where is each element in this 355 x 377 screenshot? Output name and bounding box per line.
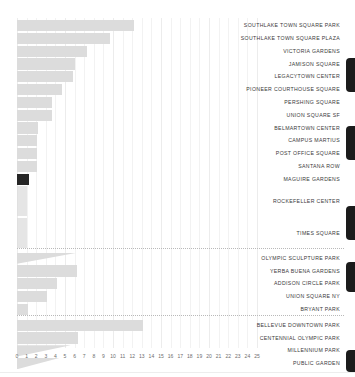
x-axis: 0123456789101112131415161718192021222324… (17, 352, 257, 364)
bar (17, 46, 87, 57)
x-tick-4: 4 (54, 352, 57, 360)
x-tick-23: 23 (235, 352, 241, 360)
x-tick-13: 13 (139, 352, 145, 360)
x-tick-15: 15 (158, 352, 164, 360)
category-labels: SOUTHLAKE TOWN SQUARE PARKSOUTHLAKE TOWN… (150, 18, 340, 348)
category-label[interactable]: SANTANA ROW (298, 163, 340, 170)
category-label[interactable]: BELMARTOWN CENTER (274, 125, 340, 132)
category-label[interactable]: TIMES SQUARE (297, 230, 340, 237)
edge-marker-4 (346, 262, 355, 292)
category-label[interactable]: ROCKEFELLER CENTER (273, 198, 340, 205)
category-label[interactable]: BELLEVUE DOWNTOWN PARK (257, 322, 340, 329)
bar (17, 122, 38, 133)
x-tick-20: 20 (206, 352, 212, 360)
bottom-divider (0, 372, 355, 373)
x-tick-24: 24 (245, 352, 251, 360)
x-tick-14: 14 (149, 352, 155, 360)
bar (17, 320, 143, 331)
category-label[interactable]: CENTENNIAL OLYMPIC PARK (260, 335, 340, 342)
bar (17, 304, 28, 315)
x-tick-16: 16 (168, 352, 174, 360)
category-label[interactable]: VICTORIA GARDENS (283, 48, 340, 55)
bar (17, 278, 57, 289)
edge-marker-5 (346, 350, 355, 372)
bar (17, 84, 62, 95)
x-tick-5: 5 (64, 352, 67, 360)
edge-marker-1 (346, 58, 355, 92)
x-tick-12: 12 (129, 352, 135, 360)
x-tick-3: 3 (44, 352, 47, 360)
x-tick-22: 22 (225, 352, 231, 360)
category-label[interactable]: ADDISON CIRCLE PARK (274, 280, 340, 287)
bar (17, 332, 78, 343)
x-tick-18: 18 (187, 352, 193, 360)
bar (17, 58, 75, 69)
category-label[interactable]: CAMPUS MARTIUS (288, 137, 340, 144)
bar-cluster (17, 218, 27, 248)
category-label[interactable]: UNION SQUARE NY (286, 293, 340, 300)
horizontal-bar-chart: SOUTHLAKE TOWN SQUARE PARKSOUTHLAKE TOWN… (0, 0, 355, 377)
category-label[interactable]: PUBLIC GARDEN (293, 360, 340, 367)
x-tick-19: 19 (197, 352, 203, 360)
category-label[interactable]: YERBA BUENA GARDENS (270, 268, 340, 275)
bar (17, 20, 134, 31)
x-tick-7: 7 (83, 352, 86, 360)
x-tick-17: 17 (177, 352, 183, 360)
x-tick-11: 11 (120, 352, 125, 360)
x-tick-2: 2 (35, 352, 38, 360)
bar (17, 265, 77, 276)
category-label[interactable]: PIONEER COURTHOUSE SQUARE (246, 86, 340, 93)
x-tick-21: 21 (216, 352, 222, 360)
category-label[interactable]: JAMISON SQUARE (289, 61, 340, 68)
category-label[interactable]: POST OFFICE SQUARE (276, 150, 340, 157)
bar-highlighted (17, 174, 29, 185)
edge-marker-2 (346, 126, 355, 160)
x-tick-25: 25 (254, 352, 260, 360)
category-label[interactable]: MILLENNIUM PARK (288, 347, 340, 354)
bar (17, 148, 37, 159)
category-label[interactable]: MAGUIRE GARDENS (283, 176, 340, 183)
x-tick-10: 10 (110, 352, 116, 360)
category-label[interactable]: SOUTHLAKE TOWN SQUARE PLAZA (241, 35, 340, 42)
x-tick-1: 1 (25, 352, 28, 360)
bar (17, 110, 52, 121)
category-label[interactable]: BRYANT PARK (301, 306, 341, 313)
x-tick-0: 0 (16, 352, 19, 360)
x-tick-9: 9 (102, 352, 105, 360)
bar (17, 97, 52, 108)
bar (17, 33, 110, 44)
bar-wedge (17, 253, 78, 264)
category-label[interactable]: SOUTHLAKE TOWN SQUARE PARK (244, 22, 340, 29)
category-label[interactable]: OLYMPIC SCULPTURE PARK (261, 255, 340, 262)
bar (17, 135, 37, 146)
category-label[interactable]: UNION SQUARE SF (287, 112, 340, 119)
bar-cluster (17, 186, 27, 216)
bar (17, 291, 47, 302)
bar (17, 71, 73, 82)
x-tick-6: 6 (73, 352, 76, 360)
category-label[interactable]: PERSHING SQUARE (284, 99, 340, 106)
bar (17, 161, 37, 172)
x-tick-8: 8 (92, 352, 95, 360)
category-label[interactable]: LEGACYTOWN CENTER (274, 73, 340, 80)
edge-marker-3 (346, 206, 355, 240)
